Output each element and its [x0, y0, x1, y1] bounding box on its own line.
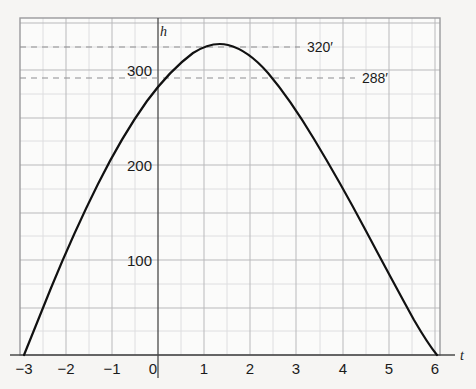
x-tick-label: 3	[292, 360, 300, 377]
chart-figure: h t −3 −2 −1 0 1 2 3 4 5 6 100 200 300 3…	[0, 0, 476, 389]
x-tick-label: 2	[246, 360, 254, 377]
y-axis-label: h	[160, 24, 167, 39]
x-tick-label: 5	[385, 360, 393, 377]
y-tick-label: 200	[127, 157, 152, 174]
annotation-label-288: 288′	[362, 70, 388, 86]
parabola-chart: h t −3 −2 −1 0 1 2 3 4 5 6 100 200 300 3…	[0, 0, 476, 389]
x-tick-label: −2	[57, 360, 74, 377]
x-tick-label: 4	[339, 360, 347, 377]
y-tick-label: 100	[127, 252, 152, 269]
annotation-label-320: 320′	[307, 39, 333, 55]
x-tick-label: 0	[149, 360, 157, 377]
y-tick-label: 300	[127, 62, 152, 79]
x-tick-label: 1	[200, 360, 208, 377]
plot-background	[20, 18, 440, 355]
x-tick-label: −1	[103, 360, 120, 377]
x-tick-label: −3	[15, 360, 32, 377]
x-tick-label: 6	[431, 360, 439, 377]
